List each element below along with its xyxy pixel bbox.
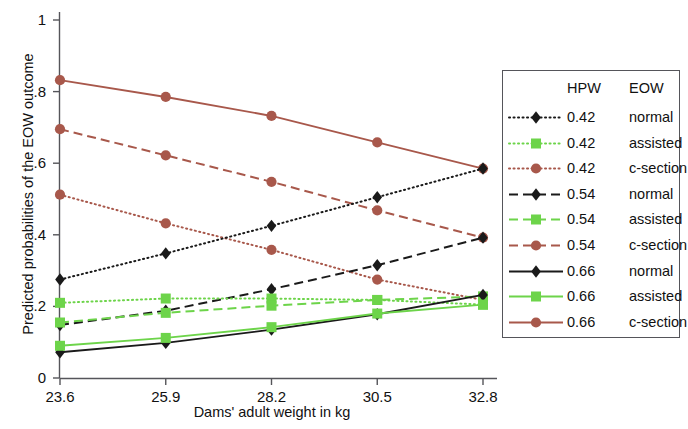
data-point-diamond bbox=[372, 191, 382, 203]
legend-eow-value: assisted bbox=[629, 135, 682, 152]
data-point-square bbox=[161, 308, 171, 318]
legend-eow-value: normal bbox=[629, 186, 673, 203]
legend-row[interactable]: 0.54assisted bbox=[503, 207, 681, 232]
legend-row[interactable]: 0.66c-section bbox=[503, 310, 681, 335]
data-point-circle bbox=[55, 124, 65, 134]
data-point-diamond bbox=[267, 220, 277, 232]
line-chart-svg bbox=[0, 0, 500, 429]
data-point-diamond bbox=[531, 265, 541, 277]
data-point-circle bbox=[372, 274, 382, 284]
series-0-66-c-section bbox=[55, 75, 488, 174]
data-point-circle bbox=[531, 317, 541, 327]
y-tick-label: 1 bbox=[12, 12, 46, 27]
legend-key-swatch bbox=[507, 131, 565, 156]
data-point-circle bbox=[161, 92, 171, 102]
x-tick-label: 28.2 bbox=[242, 389, 302, 404]
data-point-diamond bbox=[372, 259, 382, 271]
data-point-square bbox=[161, 333, 171, 343]
legend-key-swatch bbox=[507, 182, 565, 207]
legend-row[interactable]: 0.42normal bbox=[503, 105, 681, 130]
data-point-square bbox=[531, 215, 541, 225]
legend-header: HPW EOW bbox=[503, 79, 681, 101]
legend-hpw-value: 0.66 bbox=[567, 263, 595, 280]
data-point-diamond bbox=[478, 162, 488, 174]
x-tick-label: 23.6 bbox=[30, 389, 90, 404]
legend-hpw-value: 0.66 bbox=[567, 288, 595, 305]
data-point-diamond bbox=[55, 273, 65, 285]
legend-hpw-value: 0.66 bbox=[567, 314, 595, 331]
legend-row[interactable]: 0.66normal bbox=[503, 259, 681, 284]
data-point-circle bbox=[266, 177, 276, 187]
legend-key-swatch bbox=[507, 284, 565, 309]
x-tick-label: 32.8 bbox=[453, 389, 513, 404]
data-point-square bbox=[372, 309, 382, 319]
data-point-diamond bbox=[161, 247, 171, 259]
data-point-circle bbox=[161, 218, 171, 228]
legend-header-hpw: HPW bbox=[567, 79, 601, 97]
legend-eow-value: normal bbox=[629, 263, 673, 280]
y-tick-label: 0 bbox=[12, 370, 46, 385]
legend-row[interactable]: 0.42c-section bbox=[503, 156, 681, 181]
legend-eow-value: c-section bbox=[629, 237, 687, 254]
data-point-circle bbox=[372, 205, 382, 215]
data-point-square bbox=[267, 322, 277, 332]
data-point-square bbox=[531, 138, 541, 148]
x-axis-label: Dams' adult weight in kg bbox=[60, 404, 484, 420]
legend-hpw-value: 0.54 bbox=[567, 186, 595, 203]
legend-hpw-value: 0.42 bbox=[567, 109, 595, 126]
data-point-circle bbox=[55, 190, 65, 200]
data-point-square bbox=[161, 294, 171, 304]
y-tick-label: .8 bbox=[12, 84, 46, 99]
legend-row[interactable]: 0.42assisted bbox=[503, 131, 681, 156]
data-point-square bbox=[55, 318, 65, 328]
x-tick-label: 25.9 bbox=[136, 389, 196, 404]
data-point-circle bbox=[161, 150, 171, 160]
data-point-square bbox=[267, 301, 277, 311]
legend-row[interactable]: 0.54normal bbox=[503, 182, 681, 207]
legend-key-swatch bbox=[507, 233, 565, 258]
legend-hpw-value: 0.42 bbox=[567, 160, 595, 177]
legend-hpw-value: 0.54 bbox=[567, 211, 595, 228]
legend-key-swatch bbox=[507, 259, 565, 284]
chart-root: Predicted probabilities of the EOW outco… bbox=[0, 0, 688, 429]
legend-eow-value: assisted bbox=[629, 288, 682, 305]
data-point-square bbox=[478, 300, 488, 310]
y-tick-label: .2 bbox=[12, 298, 46, 313]
legend-key-swatch bbox=[507, 105, 565, 130]
chart-plot-area: Predicted probabilities of the EOW outco… bbox=[0, 0, 500, 429]
series-line bbox=[60, 80, 483, 168]
legend-row[interactable]: 0.54c-section bbox=[503, 233, 681, 258]
y-tick-label: .4 bbox=[12, 227, 46, 242]
data-point-square bbox=[372, 295, 382, 305]
legend-key-swatch bbox=[507, 207, 565, 232]
data-point-square bbox=[55, 298, 65, 308]
x-tick-label: 30.5 bbox=[347, 389, 407, 404]
legend-hpw-value: 0.54 bbox=[567, 237, 595, 254]
data-point-diamond bbox=[531, 111, 541, 123]
data-point-circle bbox=[266, 111, 276, 121]
chart-legend: HPW EOW 0.42normal0.42assisted0.42c-sect… bbox=[502, 70, 680, 338]
data-point-circle bbox=[531, 164, 541, 174]
legend-row[interactable]: 0.66assisted bbox=[503, 284, 681, 309]
legend-eow-value: c-section bbox=[629, 314, 687, 331]
legend-key-swatch bbox=[507, 156, 565, 181]
data-point-circle bbox=[266, 245, 276, 255]
legend-header-eow: EOW bbox=[629, 79, 664, 97]
y-tick-label: .6 bbox=[12, 155, 46, 170]
legend-key-swatch bbox=[507, 310, 565, 335]
data-point-square bbox=[531, 292, 541, 302]
data-point-circle bbox=[531, 240, 541, 250]
data-point-circle bbox=[55, 75, 65, 85]
data-point-diamond bbox=[478, 231, 488, 243]
legend-eow-value: normal bbox=[629, 109, 673, 126]
legend-hpw-value: 0.42 bbox=[567, 135, 595, 152]
data-point-square bbox=[55, 341, 65, 351]
data-point-diamond bbox=[531, 188, 541, 200]
legend-eow-value: assisted bbox=[629, 211, 682, 228]
legend-eow-value: c-section bbox=[629, 160, 687, 177]
data-point-circle bbox=[372, 137, 382, 147]
